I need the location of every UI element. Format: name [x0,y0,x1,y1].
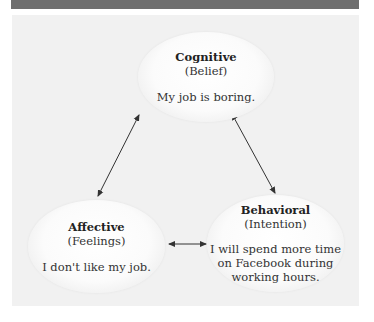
node-text-line: on Facebook during [210,256,341,270]
node-cognitive: Cognitive (Belief) My job is boring. [138,32,274,122]
node-text-line: I don't like my job. [42,260,151,274]
node-title: Affective [68,220,124,234]
node-title: Behavioral [241,203,310,217]
node-subtitle: (Intention) [244,217,306,231]
arrow-cognitive-behavioral [232,114,275,193]
arrow-cognitive-affective [98,115,139,196]
node-text-line: My job is boring. [157,90,256,104]
node-text: I don't like my job. [42,260,151,274]
node-subtitle: (Belief) [185,64,228,78]
node-behavioral: Behavioral (Intention) I will spend more… [207,195,344,292]
node-subtitle: (Feelings) [68,234,126,248]
node-text-line: working hours. [210,270,341,284]
node-text-line: I will spend more time [210,242,341,256]
node-text: I will spend more time on Facebook durin… [210,242,341,284]
node-title: Cognitive [175,50,236,64]
node-affective: Affective (Feelings) I don't like my job… [28,200,165,293]
node-text: My job is boring. [157,90,256,104]
